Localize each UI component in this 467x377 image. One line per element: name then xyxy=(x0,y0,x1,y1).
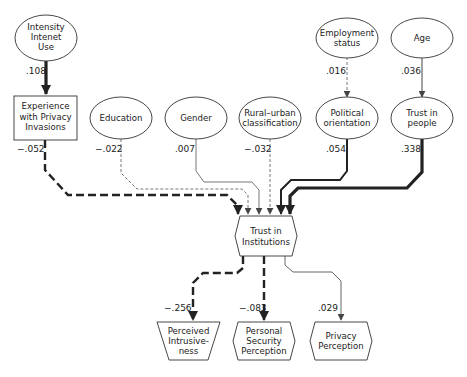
svg-text:Political: Political xyxy=(330,108,363,118)
node-age: Age xyxy=(391,18,453,58)
coef-education-trust: −.022 xyxy=(95,144,123,154)
coef-employment-political: .016 xyxy=(326,66,346,76)
svg-text:Age: Age xyxy=(414,33,431,43)
svg-text:Intensity: Intensity xyxy=(27,22,64,32)
svg-text:Perceived: Perceived xyxy=(168,326,210,336)
svg-text:ness: ness xyxy=(179,346,199,356)
svg-text:Perception: Perception xyxy=(318,341,363,351)
node-personal-security-perception: Personal Security Perception xyxy=(233,322,295,360)
coef-intensity-experience: .108 xyxy=(26,66,46,76)
svg-text:orientation: orientation xyxy=(323,118,370,128)
node-experience-privacy-invasions: Experience with Privacy Invasions xyxy=(14,96,77,140)
node-intensity-internet-use: Intensity Intenet Use xyxy=(15,15,77,61)
svg-text:Experience: Experience xyxy=(22,101,70,111)
svg-text:Use: Use xyxy=(38,42,54,52)
node-privacy-perception: Privacy Perception xyxy=(310,322,372,360)
svg-text:Security: Security xyxy=(246,336,281,346)
svg-text:Trust in: Trust in xyxy=(405,108,437,118)
svg-text:Trust in: Trust in xyxy=(249,226,281,236)
coef-trust-perceived: −.256 xyxy=(164,303,192,313)
svg-text:Privacy: Privacy xyxy=(325,331,356,341)
node-political-orientation: Political orientation xyxy=(316,97,378,139)
coef-experience-trust: −.052 xyxy=(17,144,45,154)
svg-text:Institutions: Institutions xyxy=(242,237,290,247)
coef-gender-trust: .007 xyxy=(175,144,195,154)
svg-text:classification: classification xyxy=(242,118,298,128)
coef-political-trust: .054 xyxy=(326,144,346,154)
edge-experience-trust xyxy=(45,140,238,214)
svg-text:with Privacy: with Privacy xyxy=(19,112,71,122)
svg-text:Intenet: Intenet xyxy=(31,32,62,42)
coef-trustpeople-trust: .338 xyxy=(401,144,421,154)
node-perceived-intrusiveness: Perceived Intrusive- ness xyxy=(157,322,220,360)
coef-trust-privacy: .029 xyxy=(318,303,338,313)
edge-trust-perceived xyxy=(193,256,243,320)
coef-trust-personal: −.083 xyxy=(239,303,267,313)
coef-rural-trust: −.032 xyxy=(244,144,272,154)
svg-text:Employment: Employment xyxy=(320,28,375,38)
svg-text:people: people xyxy=(407,118,436,128)
coef-age-trustpeople: .036 xyxy=(401,66,421,76)
svg-text:Rural–urban: Rural–urban xyxy=(244,108,296,118)
svg-text:Invasions: Invasions xyxy=(25,122,66,132)
node-trust-in-people: Trust in people xyxy=(391,97,453,139)
node-education: Education xyxy=(90,97,152,139)
svg-text:Perception: Perception xyxy=(241,346,286,356)
svg-text:Gender: Gender xyxy=(180,113,212,123)
node-trust-in-institutions: Trust in Institutions xyxy=(235,216,297,256)
svg-text:status: status xyxy=(334,38,361,48)
svg-text:Personal: Personal xyxy=(246,326,283,336)
node-employment-status: Employment status xyxy=(316,18,378,58)
node-gender: Gender xyxy=(165,97,227,139)
path-diagram: Intensity Intenet Use Experience with Pr… xyxy=(0,0,467,377)
node-rural-urban-classification: Rural–urban classification xyxy=(239,97,301,139)
svg-text:Intrusive-: Intrusive- xyxy=(168,336,209,346)
svg-text:Education: Education xyxy=(100,113,143,123)
